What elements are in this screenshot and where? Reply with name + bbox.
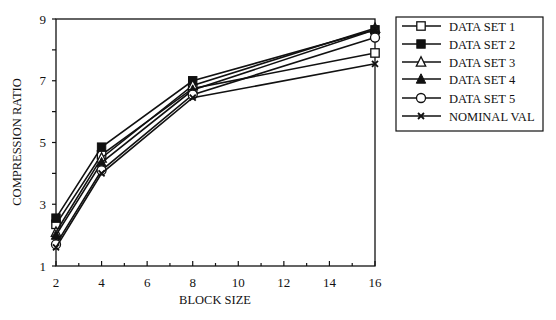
legend-label: NOMINAL VAL: [449, 110, 535, 124]
x-tick-label: 6: [144, 275, 151, 290]
legend-label: DATA SET 4: [449, 73, 516, 87]
y-tick-label: 1: [40, 259, 47, 274]
series-data-set-4: [51, 25, 379, 240]
x-tick-label: 8: [189, 275, 196, 290]
y-tick-label: 3: [40, 197, 47, 212]
legend-label: DATA SET 1: [449, 20, 515, 34]
series-layer: [51, 23, 379, 250]
chart-canvas: 246810121416 13579 BLOCK SIZE COMPRESSIO…: [0, 0, 556, 320]
series-data-set-1: [52, 49, 379, 229]
compression-ratio-chart: 246810121416 13579 BLOCK SIZE COMPRESSIO…: [0, 0, 556, 320]
x-tick-label: 10: [232, 275, 245, 290]
x-tick-label: 12: [277, 275, 290, 290]
series-data-set-3: [51, 23, 379, 236]
series-data-set-2: [52, 26, 379, 223]
series-data-set-5: [52, 33, 380, 249]
y-axis-title: COMPRESSION RATIO: [10, 78, 24, 205]
x-tick-label: 4: [98, 275, 105, 290]
legend-label: DATA SET 3: [449, 56, 515, 70]
x-tick-label: 14: [323, 275, 337, 290]
legend-label: DATA SET 5: [449, 92, 515, 106]
x-axis-title: BLOCK SIZE: [179, 293, 251, 307]
legend: DATA SET 1DATA SET 2DATA SET 3DATA SET 4…: [396, 17, 543, 131]
x-tick-label: 2: [53, 275, 60, 290]
y-tick-label: 7: [40, 73, 47, 88]
legend-label: DATA SET 2: [449, 38, 515, 52]
y-tick-label: 9: [40, 12, 47, 27]
x-tick-label: 16: [369, 275, 383, 290]
y-tick-label: 5: [40, 135, 47, 150]
